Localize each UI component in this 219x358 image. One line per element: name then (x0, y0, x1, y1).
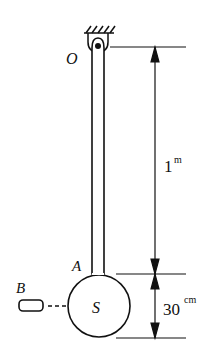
bob-label-s: S (92, 299, 100, 316)
point-label-a: A (71, 258, 82, 274)
diameter-unit: cm (184, 294, 196, 305)
rod (92, 38, 104, 274)
projectile-b (19, 300, 43, 311)
pendulum-diagram: O A S B 1 m 30 cm (0, 0, 219, 358)
rod-length-unit: m (174, 154, 182, 165)
diameter-value: 30 (163, 300, 180, 319)
projectile-label-b: B (16, 280, 25, 296)
rod-length-value: 1 (164, 157, 173, 176)
pivot-label-o: O (66, 50, 78, 67)
pivot-pin (95, 43, 101, 49)
